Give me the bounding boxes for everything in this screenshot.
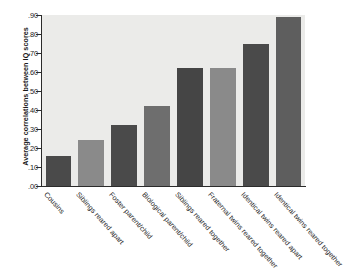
x-axis-line [41,186,306,187]
x-axis-tick-label: Siblings reared apart [75,190,127,246]
y-axis-tick-mark [36,148,41,149]
bars-layer [42,15,305,186]
x-axis-tick-label: Cousins [42,190,66,216]
y-axis-tick-mark [36,15,41,16]
bar[interactable] [78,140,104,186]
y-axis-tick-labels: .90.80.70.60.50.40.30.20.10.00 [16,0,38,277]
y-axis-tick-mark [36,72,41,73]
bar[interactable] [111,125,137,186]
x-axis-tick-label: Identical twins reared together [272,190,344,269]
y-axis-tick-mark [36,34,41,35]
x-axis-tick-label: Siblings reared together [173,190,232,254]
x-axis-tick-label: Fraternal twins reared together [206,190,279,270]
x-axis-tick-label: Biological parent/child [141,190,195,249]
bar-chart-figure: Average correlations between IQ scores .… [0,0,364,277]
bar[interactable] [210,68,236,186]
bar[interactable] [144,106,170,186]
y-axis-tick-mark [36,167,41,168]
bar[interactable] [276,17,302,186]
x-axis-tick-label: Foster parent/child [108,190,155,241]
y-axis-tick-mark [36,91,41,92]
y-axis-tick-mark [36,53,41,54]
bar[interactable] [243,44,269,187]
bar[interactable] [46,156,72,186]
y-axis-tick-mark [36,110,41,111]
x-axis-tick-label: Identical twins reared apart [239,190,304,261]
y-axis-tick-mark [36,129,41,130]
y-axis-tick-mark [36,186,41,187]
bar[interactable] [177,68,203,186]
